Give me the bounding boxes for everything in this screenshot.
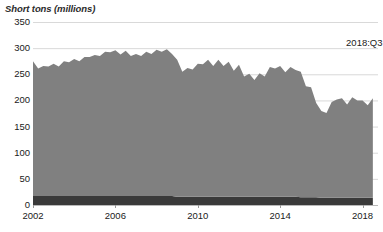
- y-axis: 050100150200250300350: [0, 0, 30, 232]
- chart-annotation: 2018:Q3: [346, 37, 382, 48]
- series-layer: [33, 49, 373, 205]
- y-axis-tick-label: 150: [0, 122, 30, 132]
- y-axis-tick-label: 250: [0, 69, 30, 79]
- x-axis-tick-label: 2006: [105, 210, 126, 221]
- x-axis-tick-mark: [115, 205, 116, 208]
- x-axis-tick-mark: [363, 205, 364, 208]
- x-axis-tick-label: 2014: [270, 210, 291, 221]
- x-axis-tick-mark: [33, 205, 34, 208]
- area-series-upper: [33, 49, 373, 197]
- y-axis-tick-label: 100: [0, 148, 30, 158]
- y-axis-tick-label: 0: [0, 200, 30, 210]
- y-axis-tick-label: 50: [0, 174, 30, 184]
- x-axis-tick-mark: [280, 205, 281, 208]
- x-axis-tick-label: 2002: [22, 210, 43, 221]
- x-axis-tick-label: 2018: [352, 210, 373, 221]
- y-axis-tick-label: 300: [0, 43, 30, 53]
- y-axis-tick-label: 350: [0, 17, 30, 27]
- x-axis-tick-mark: [198, 205, 199, 208]
- x-axis: 20022006201020142018: [33, 205, 378, 232]
- y-axis-tick-label: 200: [0, 95, 30, 105]
- x-axis-tick-label: 2010: [187, 210, 208, 221]
- plot-area: [33, 22, 378, 205]
- area-chart-svg: [33, 22, 378, 205]
